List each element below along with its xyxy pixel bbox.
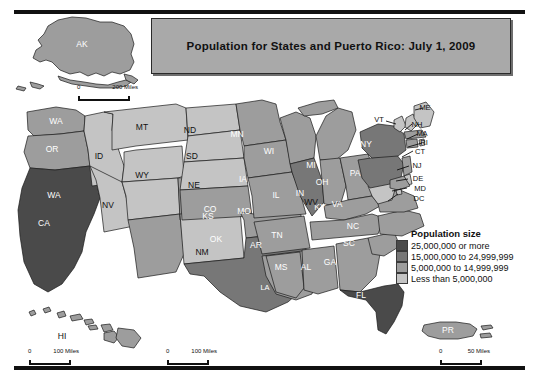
state-PR (422, 322, 493, 339)
state-WY (122, 146, 184, 182)
state-label-CA: CA (38, 218, 50, 228)
state-label-SC: SC (343, 238, 355, 248)
legend-swatch-1 (396, 251, 408, 262)
state-label-OK: OK (210, 234, 223, 244)
state-label-DE: DE (413, 174, 423, 183)
state-label-NY: NY (360, 139, 372, 149)
legend-label-2: 5,000,000 to 14,999,999 (411, 263, 509, 273)
scalebar-alaska: 0 200 Miles (78, 84, 130, 101)
scalebar-continental-max: 100 Miles (191, 348, 217, 354)
state-label-IN: IN (296, 188, 305, 198)
legend-heading: Population size (411, 228, 536, 239)
legend-item-3: Less than 5,000,000 (396, 273, 536, 284)
legend-swatch-2 (396, 262, 408, 273)
state-label-PA: PA (350, 168, 361, 178)
state-label-WY: WY (135, 170, 149, 180)
map-figure: Population for States and Puerto Rico: J… (0, 0, 539, 381)
state-CA (18, 166, 100, 292)
state-label-AR: AR (250, 240, 262, 250)
legend-item-2: 5,000,000 to 14,999,999 (396, 262, 536, 273)
scalebar-continental: 0 100 Miles (167, 348, 209, 365)
state-label-VT: VT (374, 115, 384, 124)
state-label-OR: OR (46, 144, 59, 154)
legend: Population size 25,000,000 or more 15,00… (396, 228, 536, 284)
state-label-AK: AK (76, 39, 88, 49)
state-label-WA: WA (49, 116, 63, 126)
scalebar-hawaii-max: 100 Miles (53, 348, 79, 354)
scalebar-alaska-zero: 0 (77, 84, 80, 90)
legend-label-0: 25,000,000 or more (411, 241, 490, 251)
state-label-MA: MA (416, 129, 427, 138)
state-label-TN: TN (271, 230, 282, 240)
legend-item-0: 25,000,000 or more (396, 240, 536, 251)
state-UT (122, 178, 180, 220)
state-label-VA: VA (332, 199, 343, 209)
state-label-CT: CT (415, 147, 425, 156)
state-label-IL: IL (272, 190, 279, 200)
state-label-LA: LA (260, 283, 269, 292)
state-label-MN: MN (230, 129, 243, 139)
state-label-ME: ME (419, 103, 430, 112)
state-label-MO: MO (237, 206, 251, 216)
state-label-NJ: NJ (412, 161, 421, 170)
scalebar-pr-zero: 0 (439, 348, 442, 354)
state-AK (16, 17, 138, 91)
scalebar-pr-max: 50 Miles (468, 348, 490, 354)
state-label-MT: MT (136, 122, 148, 132)
state-label-NM: NM (195, 247, 208, 257)
state-label-WI: WI (264, 146, 274, 156)
scalebar-hawaii: 0 100 Miles (29, 348, 71, 365)
state-label-KS: KS (202, 211, 214, 221)
state-FL (340, 284, 404, 334)
state-label-AL: AL (301, 262, 312, 272)
state-label-SD: SD (186, 151, 198, 161)
state-label-MI: MI (306, 160, 315, 170)
scalebar-alaska-max: 200 Miles (112, 84, 138, 90)
state-label-NV: NV (102, 200, 114, 210)
state-NJ (402, 156, 412, 176)
state-label-RI: RI (420, 138, 428, 147)
state-label-NE: NE (188, 180, 200, 190)
state-label-TX: TX (200, 282, 211, 292)
state-label-OH: OH (316, 177, 329, 187)
us-choropleth-map: AK HI PR (0, 0, 539, 381)
state-label-FL: FL (356, 290, 366, 300)
scalebar-puerto-rico: 0 50 Miles (440, 348, 482, 365)
state-label-NH: NH (412, 120, 423, 129)
state-label-PR: PR (442, 325, 454, 335)
state-label-WV: WV (304, 197, 318, 207)
state-label-AZ: AZ (121, 244, 132, 254)
legend-swatch-3 (396, 273, 408, 284)
state-label-MS: MS (275, 262, 288, 272)
state-label-WA-dup: WA (47, 190, 61, 200)
state-AZ (128, 214, 184, 278)
state-label-GA: GA (324, 257, 337, 267)
legend-label-3: Less than 5,000,000 (411, 274, 493, 284)
state-label-MD: MD (414, 184, 426, 193)
scalebar-continental-zero: 0 (166, 348, 169, 354)
legend-swatch-0 (396, 240, 408, 251)
state-label-ID: ID (95, 151, 104, 161)
state-label-ND: ND (184, 125, 196, 135)
state-HI (29, 307, 141, 348)
state-label-DC: DC (414, 194, 425, 203)
legend-item-1: 15,000,000 to 24,999,999 (396, 251, 536, 262)
state-label-IA: IA (239, 174, 247, 184)
scalebar-hawaii-zero: 0 (28, 348, 31, 354)
state-label-HI: HI (58, 331, 67, 341)
legend-label-1: 15,000,000 to 24,999,999 (411, 252, 514, 262)
state-MI (316, 108, 356, 160)
state-label-NC: NC (347, 221, 359, 231)
